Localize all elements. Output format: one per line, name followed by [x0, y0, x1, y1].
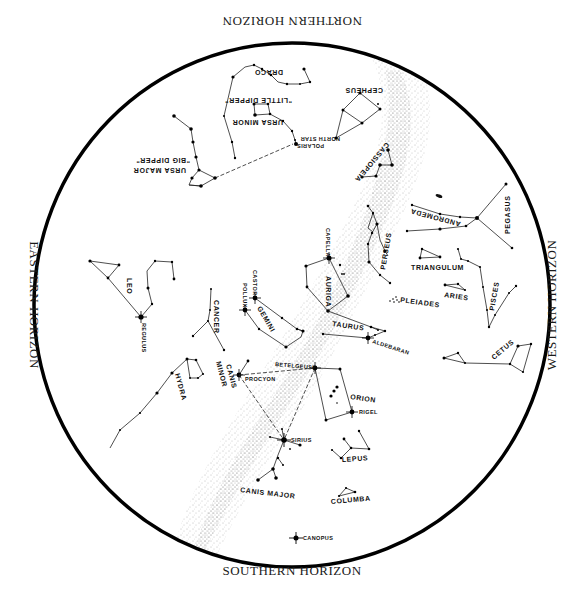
svg-text:CAPELLA: CAPELLA	[325, 228, 331, 257]
svg-text:CANIS MAJOR: CANIS MAJOR	[240, 486, 296, 500]
star-polaris: POLARIS NORTH STAR	[294, 136, 340, 149]
svg-text:CASTOR: CASTOR	[252, 270, 258, 296]
svg-text:CANOPUS: CANOPUS	[303, 535, 333, 541]
star-chart: NORTHERN HORIZON SOUTHERN HORIZON EASTER…	[0, 0, 584, 592]
constellation-canis-minor: CANIS MINOR	[215, 360, 249, 390]
svg-text:CEPHEUS: CEPHEUS	[345, 87, 383, 94]
svg-text:URSA MINOR: URSA MINOR	[232, 119, 283, 126]
svg-text:PROCYON: PROCYON	[245, 376, 276, 382]
svg-text:TRIANGULUM: TRIANGULUM	[411, 264, 464, 271]
svg-text:"LITTLE DIPPER": "LITTLE DIPPER"	[225, 97, 292, 104]
svg-text:AURIGA: AURIGA	[325, 276, 332, 307]
star-regulus: REGULUS	[135, 311, 147, 353]
svg-text:SIRIUS: SIRIUS	[291, 437, 312, 443]
star-aldebaran: ALDEBARAN	[362, 332, 410, 356]
constellation-triangulum: TRIANGULUM	[411, 248, 464, 271]
svg-text:POLARIS: POLARIS	[297, 143, 324, 149]
svg-text:ALDEBARAN: ALDEBARAN	[372, 338, 410, 356]
star-cluster-pleiades: PLEIADES	[389, 296, 440, 308]
svg-text:CANCER: CANCER	[213, 300, 220, 334]
western-horizon-label: WESTERN HORIZON	[544, 240, 559, 371]
andromeda-galaxy	[435, 193, 443, 198]
constellation-leo: LEO	[88, 259, 175, 317]
constellation-hydra: HYDRA	[110, 358, 204, 449]
star-pollux: POLLUX	[239, 283, 251, 316]
svg-text:COLUMBA: COLUMBA	[330, 495, 370, 505]
milky-way	[170, 40, 430, 560]
eastern-horizon-label: EASTERN HORIZON	[27, 241, 42, 369]
constellation-columba: COLUMBA	[330, 487, 370, 505]
svg-text:LEO: LEO	[126, 278, 133, 294]
svg-text:PLEIADES: PLEIADES	[400, 296, 440, 308]
constellation-pegasus: PEGASUS	[475, 183, 513, 250]
constellation-lepus: LEPUS	[331, 430, 370, 463]
northern-horizon-label: NORTHERN HORIZON	[222, 14, 362, 29]
horizon-circle	[34, 43, 550, 567]
svg-text:CETUS: CETUS	[490, 338, 515, 361]
star-canopus: CANOPUS	[289, 532, 333, 544]
svg-text:URSA MAJOR: URSA MAJOR	[133, 167, 186, 174]
svg-text:NORTH STAR: NORTH STAR	[300, 136, 340, 142]
svg-text:ARIES: ARIES	[444, 291, 469, 301]
svg-text:DRACO: DRACO	[254, 69, 283, 76]
svg-text:ANDROMEDA: ANDROMEDA	[410, 208, 462, 228]
constellation-cepheus: CEPHEUS	[335, 87, 384, 140]
svg-text:PEGASUS: PEGASUS	[504, 196, 511, 234]
svg-text:RIGEL: RIGEL	[359, 409, 378, 415]
svg-text:REGULUS: REGULUS	[141, 323, 147, 353]
constellation-cetus: CETUS	[443, 338, 533, 373]
svg-text:POLLUX: POLLUX	[242, 283, 248, 308]
constellation-andromeda: ANDROMEDA	[406, 204, 477, 232]
constellation-aries: ARIES	[444, 283, 469, 302]
svg-text:HYDRA: HYDRA	[174, 372, 188, 401]
svg-text:ORION: ORION	[350, 393, 377, 404]
southern-horizon-label: SOUTHERN HORIZON	[222, 563, 361, 578]
svg-text:LEPUS: LEPUS	[342, 454, 369, 463]
svg-text:PISCES: PISCES	[488, 281, 500, 311]
svg-text:"BIG DIPPER": "BIG DIPPER"	[136, 157, 190, 164]
constellation-pisces: PISCES	[457, 248, 517, 328]
constellation-ursa-minor: "LITTLE DIPPER" URSA MINOR	[225, 97, 296, 144]
star-castor: CASTOR	[249, 270, 261, 304]
constellation-cancer: CANCER	[192, 288, 225, 351]
